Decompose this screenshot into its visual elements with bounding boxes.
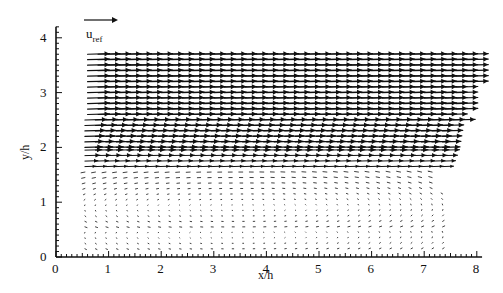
x-tick-label: 0 bbox=[52, 262, 59, 275]
reference-vector-label: uref bbox=[86, 26, 103, 44]
vector-field-plot bbox=[0, 0, 503, 293]
y-tick-label: 1 bbox=[40, 195, 47, 208]
uref-subscript: ref bbox=[93, 34, 103, 44]
y-tick-label: 2 bbox=[40, 140, 47, 153]
y-tick-label: 3 bbox=[40, 86, 47, 99]
x-tick-label: 5 bbox=[315, 262, 322, 275]
x-tick-label: 7 bbox=[420, 262, 427, 275]
x-tick-label: 2 bbox=[157, 262, 164, 275]
x-tick-label: 3 bbox=[210, 262, 217, 275]
y-tick-label: 4 bbox=[40, 31, 47, 44]
x-axis-title: x/h bbox=[258, 268, 273, 283]
x-tick-label: 8 bbox=[473, 262, 480, 275]
x-tick-label: 6 bbox=[368, 262, 375, 275]
y-axis-title: y/h bbox=[18, 145, 33, 160]
x-tick-label: 1 bbox=[105, 262, 112, 275]
y-tick-label: 0 bbox=[40, 250, 47, 263]
